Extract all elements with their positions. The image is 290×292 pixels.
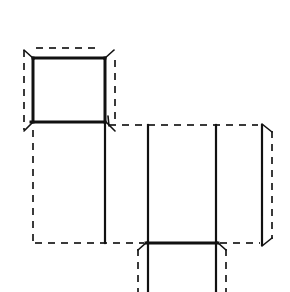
connector-center-top-left-bevel bbox=[108, 116, 109, 126]
diagram-background bbox=[0, 0, 290, 292]
cube-net-diagram bbox=[0, 0, 290, 292]
net-svg-canvas bbox=[0, 0, 290, 292]
